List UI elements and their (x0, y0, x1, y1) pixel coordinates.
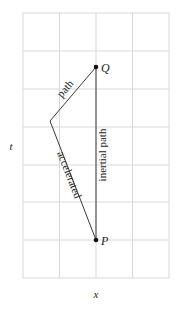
t-axis-label: t (9, 140, 13, 152)
point-p-label: P (100, 234, 109, 248)
spacetime-diagram: Q P inertial path accelerated path t x (0, 0, 178, 311)
point-p-marker (94, 238, 99, 243)
x-axis-label: x (93, 288, 99, 300)
point-q-label: Q (101, 61, 110, 75)
upper-path-label: path (54, 77, 76, 100)
point-q-marker (94, 65, 99, 70)
inertial-path-label: inertial path (96, 128, 108, 181)
